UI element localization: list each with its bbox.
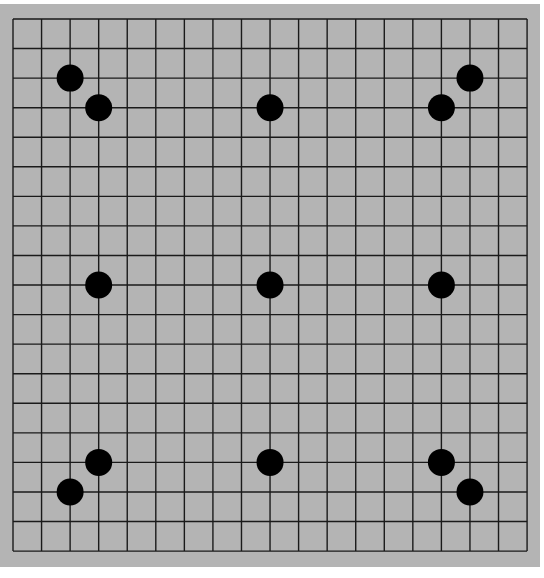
black-stone	[57, 65, 84, 92]
black-stone	[428, 94, 455, 121]
black-stone	[257, 272, 284, 299]
black-stone	[85, 94, 112, 121]
go-board[interactable]	[0, 4, 540, 567]
black-stone	[57, 478, 84, 505]
black-stone	[257, 94, 284, 121]
black-stone	[456, 478, 483, 505]
black-stone	[257, 449, 284, 476]
black-stone	[85, 449, 112, 476]
black-stone	[428, 449, 455, 476]
black-stone	[456, 65, 483, 92]
black-stone	[85, 272, 112, 299]
board-grid[interactable]	[0, 4, 540, 567]
black-stone	[428, 272, 455, 299]
